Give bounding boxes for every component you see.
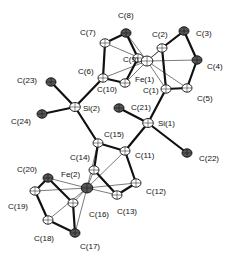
atom-label: C(4) bbox=[207, 62, 223, 71]
atom-label: C(5) bbox=[197, 94, 213, 103]
atom-c4 bbox=[192, 56, 202, 64]
atom-si1 bbox=[143, 119, 154, 128]
molecule-structure: C(8)C(7)C(9)C(6)C(10)Fe(1)C(2)C(3)C(4)C(… bbox=[0, 0, 232, 261]
atom-c22 bbox=[182, 149, 192, 157]
atom-label: C(20) bbox=[17, 165, 37, 174]
atom-label: C(6) bbox=[78, 67, 94, 76]
bond-line bbox=[48, 178, 73, 203]
atom-label: C(2) bbox=[152, 30, 168, 39]
atom-fe2 bbox=[81, 183, 93, 193]
atom-c12 bbox=[131, 179, 141, 187]
atom-c14 bbox=[89, 166, 99, 174]
atom-label: C(14) bbox=[70, 153, 90, 162]
atom-label: Si(1) bbox=[158, 119, 175, 128]
atom-c5 bbox=[182, 84, 192, 92]
atom-c10 bbox=[120, 79, 130, 87]
atom-label: C(7) bbox=[80, 28, 96, 37]
fe-contact-line bbox=[48, 188, 87, 220]
bond-line bbox=[94, 170, 117, 195]
atom-c15 bbox=[93, 139, 103, 147]
ortep-diagram: C(8)C(7)C(9)C(6)C(10)Fe(1)C(2)C(3)C(4)C(… bbox=[0, 0, 232, 261]
atom-label: C(16) bbox=[89, 210, 109, 219]
atom-label: C(19) bbox=[8, 202, 28, 211]
atom-label: C(11) bbox=[135, 151, 155, 160]
bond-line bbox=[162, 48, 166, 89]
atom-c7 bbox=[100, 39, 110, 47]
atom-label: C(12) bbox=[146, 187, 166, 196]
atom-label: C(24) bbox=[11, 117, 31, 126]
atom-c21 bbox=[114, 104, 124, 112]
atom-c17 bbox=[70, 229, 80, 237]
fe-contact-line bbox=[147, 60, 197, 61]
atom-c19 bbox=[30, 187, 40, 195]
atom-c8 bbox=[121, 29, 131, 37]
bond-line bbox=[125, 123, 148, 151]
atom-c11 bbox=[120, 147, 130, 155]
atom-c23 bbox=[46, 78, 56, 86]
bond-line bbox=[103, 43, 105, 78]
atom-label: C(21) bbox=[131, 103, 151, 112]
atom-label: C(15) bbox=[104, 130, 124, 139]
atom-c6 bbox=[98, 74, 108, 82]
atom-label: C(1) bbox=[143, 86, 159, 95]
atom-c13 bbox=[112, 191, 122, 199]
atom-label: Fe(2) bbox=[61, 170, 80, 179]
atom-label: C(8) bbox=[118, 11, 134, 20]
atom-c2 bbox=[157, 44, 167, 52]
atom-c20 bbox=[43, 174, 53, 182]
atom-label: C(3) bbox=[196, 29, 212, 38]
atom-label: Fe(1) bbox=[135, 75, 154, 84]
atom-c16 bbox=[68, 199, 78, 207]
atom-label: C(17) bbox=[80, 242, 100, 251]
atom-label: Si(2) bbox=[83, 104, 100, 113]
atom-label: C(18) bbox=[34, 234, 54, 243]
atom-c3 bbox=[179, 27, 189, 35]
atom-si2 bbox=[70, 103, 81, 112]
atom-label: C(22) bbox=[199, 154, 219, 163]
atom-label: C(23) bbox=[17, 76, 37, 85]
atom-c18 bbox=[43, 216, 53, 224]
atom-c24 bbox=[37, 110, 47, 118]
atom-label: C(9) bbox=[123, 55, 139, 64]
atom-fe1 bbox=[141, 56, 153, 66]
atom-c1 bbox=[161, 85, 171, 93]
atom-label: C(10) bbox=[97, 85, 117, 94]
atom-label: C(13) bbox=[117, 207, 137, 216]
